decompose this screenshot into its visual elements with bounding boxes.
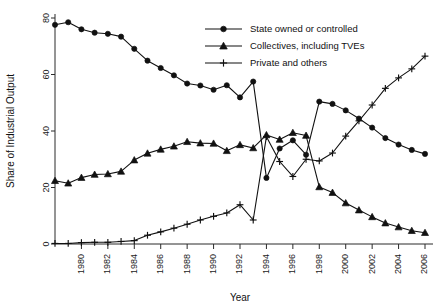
data-point-circle: [185, 81, 190, 86]
data-point-triangle: [355, 207, 362, 213]
data-point-circle: [277, 146, 282, 151]
chart-container: 0204060801980198219841986198819901992199…: [0, 0, 441, 307]
data-point-triangle: [289, 129, 296, 135]
y-tick-label: 60: [41, 69, 51, 79]
data-point-circle: [383, 135, 388, 140]
data-point-circle: [251, 79, 256, 84]
data-point-circle: [92, 30, 97, 35]
legend-item: Private and others: [205, 57, 327, 68]
series-2: [51, 129, 428, 235]
data-point-circle: [422, 151, 427, 156]
data-point-circle: [66, 20, 71, 25]
axes: 0204060801980198219841986198819901992199…: [5, 13, 433, 303]
x-tick-label: 1994: [261, 254, 271, 274]
legend-item: Collectives, including TVEs: [205, 40, 365, 51]
data-point-circle: [224, 83, 229, 88]
y-axis-title: Share of Industrial Output: [5, 74, 16, 188]
data-point-triangle: [316, 183, 323, 189]
data-point-triangle: [369, 213, 376, 219]
legend-label: Collectives, including TVEs: [250, 40, 365, 51]
data-point-triangle: [131, 157, 138, 163]
y-tick-label: 20: [41, 182, 51, 192]
data-point-triangle: [329, 189, 336, 195]
x-tick-label: 2004: [393, 254, 403, 274]
data-point-circle: [343, 108, 348, 113]
line-chart: 0204060801980198219841986198819901992199…: [0, 0, 441, 307]
y-tick-label: 80: [41, 13, 51, 23]
legend-label: State owned or controlled: [250, 23, 358, 34]
x-tick-label: 1986: [155, 254, 165, 274]
x-tick-label: 1988: [182, 254, 192, 274]
data-point-circle: [171, 73, 176, 78]
data-point-circle: [370, 125, 375, 130]
x-tick-label: 2000: [340, 254, 350, 274]
data-point-triangle: [51, 177, 58, 183]
data-point-triangle: [236, 141, 243, 147]
data-point-circle: [158, 65, 163, 70]
x-tick-label: 1980: [76, 254, 86, 274]
data-point-triangle: [223, 147, 230, 153]
data-point-circle: [145, 58, 150, 63]
series-1: [52, 20, 427, 181]
data-point-circle: [330, 101, 335, 106]
data-point-triangle: [184, 138, 191, 144]
legend-item: State owned or controlled: [205, 23, 358, 34]
x-tick-label: 1984: [129, 254, 139, 274]
legend-label: Private and others: [250, 57, 327, 68]
data-point-circle: [211, 87, 216, 92]
x-tick-label: 1996: [287, 254, 297, 274]
data-point-circle: [396, 142, 401, 147]
x-tick-label: 1992: [234, 254, 244, 274]
data-point-circle: [409, 147, 414, 152]
data-point-circle: [132, 46, 137, 51]
data-point-circle: [79, 27, 84, 32]
y-tick-label: 40: [41, 126, 51, 136]
legend: State owned or controlledCollectives, in…: [205, 23, 365, 68]
y-tick-label: 0: [41, 241, 51, 246]
data-point-circle: [264, 175, 269, 180]
x-tick-label: 2002: [367, 254, 377, 274]
data-point-circle: [198, 83, 203, 88]
x-tick-label: 1998: [314, 254, 324, 274]
data-point-circle: [237, 95, 242, 100]
data-point-circle: [118, 34, 123, 39]
x-tick-label: 1990: [208, 254, 218, 274]
data-point-triangle: [382, 220, 389, 226]
data-point-circle: [317, 99, 322, 104]
data-point-circle: [290, 138, 295, 143]
x-axis-title: Year: [230, 292, 251, 303]
data-point-circle: [221, 26, 227, 32]
x-tick-label: 1982: [102, 254, 112, 274]
data-point-circle: [52, 22, 57, 27]
data-point-circle: [105, 31, 110, 36]
x-tick-label: 2006: [419, 254, 429, 274]
